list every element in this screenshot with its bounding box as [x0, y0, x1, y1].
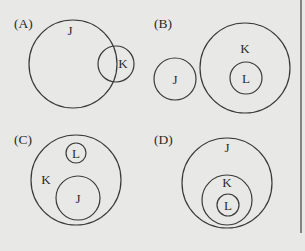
panel-b: (B) J K L	[154, 16, 290, 113]
set-label-j-c: J	[75, 191, 80, 206]
set-label-j-a: J	[67, 23, 72, 38]
set-label-k-a: K	[118, 56, 128, 71]
venn-diagram-canvas: (A) J K (B) J K L (C) K L J (D) J K L	[0, 0, 305, 251]
set-label-j-b: J	[172, 72, 177, 87]
set-label-j-d: J	[224, 140, 229, 155]
panel-a: (A) J K	[14, 16, 134, 108]
circle-j-a	[29, 20, 117, 108]
set-label-l-b: L	[242, 71, 250, 86]
set-label-k-b: K	[240, 41, 250, 56]
set-label-l-d: L	[224, 198, 232, 213]
set-label-l-c: L	[72, 146, 80, 161]
set-label-k-c: K	[41, 172, 51, 187]
panel-label-b: (B)	[154, 16, 172, 31]
circle-k-a	[98, 46, 134, 82]
panel-label-c: (C)	[14, 132, 32, 147]
circle-k-b	[200, 23, 290, 113]
panel-d: (D) J K L	[154, 132, 272, 228]
panel-label-a: (A)	[14, 16, 33, 31]
panel-label-d: (D)	[154, 132, 173, 147]
panel-c: (C) K L J	[14, 132, 121, 225]
set-label-k-d: K	[222, 175, 232, 190]
